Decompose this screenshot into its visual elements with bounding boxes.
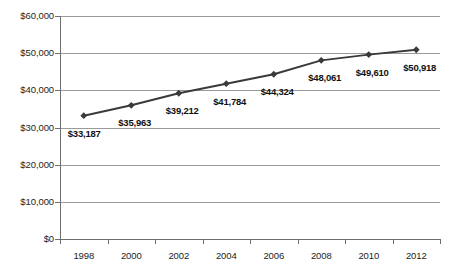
- data-point-marker: [175, 90, 182, 97]
- line-chart: $0$10,000$20,000$30,000$40,000$50,000$60…: [0, 0, 453, 274]
- data-point-marker: [318, 57, 325, 64]
- data-point-marker: [270, 71, 277, 78]
- data-point-value-label: $35,963: [118, 117, 151, 128]
- data-point-value-label: $48,061: [308, 72, 341, 83]
- data-point-marker: [413, 46, 420, 53]
- data-point-value-label: $39,212: [166, 105, 199, 116]
- data-point-value-label: $49,610: [356, 67, 389, 78]
- data-point-marker: [365, 51, 372, 58]
- data-point-value-label: $50,918: [403, 62, 436, 73]
- data-point-marker: [128, 102, 135, 109]
- data-point-value-label: $44,324: [261, 86, 294, 97]
- data-point-marker: [80, 112, 87, 119]
- data-point-marker: [223, 80, 230, 87]
- data-point-value-label: $41,784: [213, 96, 246, 107]
- data-point-value-label: $33,187: [68, 128, 101, 139]
